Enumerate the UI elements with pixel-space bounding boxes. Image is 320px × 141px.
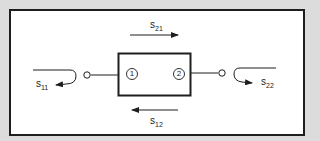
port-2-terminal bbox=[191, 70, 225, 76]
s12-label: s12 bbox=[150, 116, 163, 128]
port-1-number: 1 bbox=[126, 68, 138, 80]
s11-label: s11 bbox=[36, 79, 48, 91]
s11-sub: 11 bbox=[41, 84, 48, 91]
s12-sub: 12 bbox=[155, 121, 163, 128]
s21-label: s21 bbox=[150, 20, 163, 32]
port-2-number: 2 bbox=[173, 68, 185, 80]
s22-sub: 22 bbox=[266, 82, 274, 89]
s22-label: s22 bbox=[261, 77, 274, 89]
s21-sub: 21 bbox=[155, 25, 163, 32]
port-1-terminal bbox=[84, 72, 118, 78]
